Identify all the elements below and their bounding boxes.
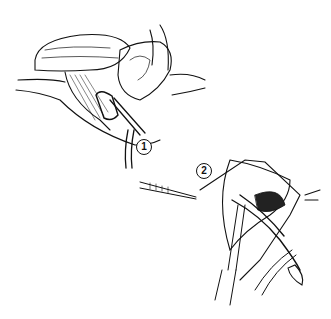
panel-2-label: 2 bbox=[196, 163, 212, 179]
panel-1-label: 1 bbox=[136, 139, 152, 155]
panel-1-drawing bbox=[0, 0, 331, 319]
illustration: 1 2 bbox=[0, 0, 331, 319]
